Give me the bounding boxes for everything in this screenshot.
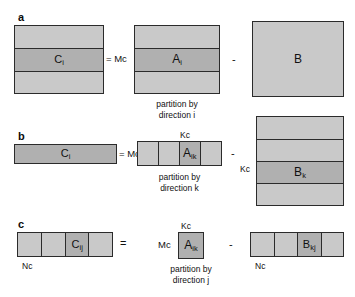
- matrix-col: [321, 233, 344, 256]
- matrix-row: [257, 139, 343, 161]
- panel-c-caption-line1: partition by: [146, 264, 236, 275]
- panel-b-caption-line1: partition by: [137, 172, 222, 183]
- panel-c-dim-nc-left: Nc: [22, 261, 32, 271]
- matrix-row: [257, 183, 343, 205]
- matrix-col-selected: Bkj: [297, 233, 321, 256]
- panel-a-minus: -: [232, 54, 236, 64]
- panel-c-dim-kc-top: Kc: [181, 221, 191, 231]
- matrix-row: [15, 71, 103, 93]
- panel-c-label-a: Aik: [184, 240, 197, 252]
- matrix-row-selected: Bk: [257, 161, 343, 183]
- matrix-col: [251, 233, 274, 256]
- panel-c-matrix-a: Aik: [178, 232, 204, 259]
- panel-b-matrix-a: Aik: [137, 141, 222, 166]
- panel-c-matrix-c: Cij: [17, 232, 113, 257]
- matrix-col: [274, 233, 298, 256]
- matrix-col-selected: Aik: [179, 142, 200, 165]
- panel-c-mc-label: Mc: [158, 240, 171, 250]
- panel-b-caption-line2: direction k: [137, 183, 222, 194]
- matrix-col: [88, 233, 112, 256]
- matrix-col: [200, 142, 221, 165]
- matrix-row-selected: Ai: [135, 48, 219, 70]
- matrix-row-selected: Ci: [15, 48, 103, 70]
- panel-a-caption-line2: direction i: [134, 110, 220, 121]
- matrix-col: [41, 233, 65, 256]
- panel-a-matrix-c: Ci: [14, 25, 104, 94]
- panel-a-label-c: Ci: [54, 54, 64, 66]
- panel-c-minus: -: [229, 239, 233, 249]
- panel-a-matrix-b: B: [252, 21, 344, 97]
- panel-c-equals: =: [120, 238, 126, 248]
- matrix-col: [158, 142, 179, 165]
- panel-b-matrix-c: Ci: [14, 144, 117, 164]
- matrix-col: [18, 233, 41, 256]
- panel-b-dim-kc-top: Kc: [180, 130, 190, 140]
- matrix-row: B: [253, 22, 343, 96]
- panel-b-label-b: Bk: [294, 167, 306, 179]
- panel-b-dim-kc-left: Kc: [240, 164, 250, 174]
- matrix-col-selected: Ci: [15, 145, 116, 163]
- panel-c-label-b: Bkj: [303, 239, 316, 251]
- panel-letter-a: a: [18, 12, 24, 23]
- panel-letter-b: b: [18, 131, 25, 142]
- panel-b-matrix-b: Bk: [256, 116, 344, 206]
- matrix-partition-figure: a Ci = Mc Ai - B partition by direction …: [0, 0, 355, 297]
- panel-b-label-c: Ci: [61, 148, 71, 160]
- panel-a-equals-mc: = Mc: [106, 54, 127, 64]
- panel-a-matrix-a: Ai: [134, 25, 220, 94]
- panel-c-dim-nc-right: Nc: [255, 261, 265, 271]
- panel-b-minus: -: [231, 148, 235, 158]
- matrix-col: [138, 142, 158, 165]
- panel-c-label-c: Cij: [72, 239, 83, 251]
- panel-a-label-b: B: [294, 54, 302, 65]
- matrix-row: [257, 117, 343, 139]
- panel-letter-c: c: [18, 219, 24, 230]
- matrix-row: [135, 26, 219, 48]
- panel-a-caption-line1: partition by: [134, 99, 220, 110]
- panel-c-caption-line2: direction j: [146, 275, 236, 286]
- matrix-row: [15, 26, 103, 48]
- matrix-row: [135, 71, 219, 93]
- panel-b-label-a: Aik: [183, 148, 196, 160]
- panel-a-label-a: Ai: [172, 54, 182, 66]
- matrix-col-selected: Cij: [65, 233, 89, 256]
- panel-c-matrix-b: Bkj: [250, 232, 344, 257]
